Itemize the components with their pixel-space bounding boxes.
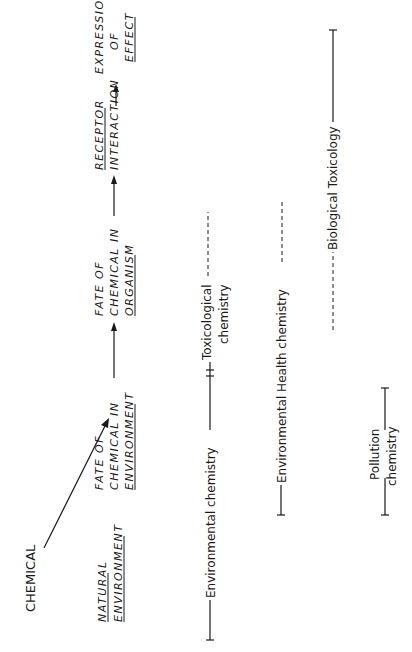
span-pollution-chemistry: Pollution chemistry [368, 388, 399, 515]
svg-text:ENVIRONMENT: ENVIRONMENT [112, 524, 125, 622]
svg-text:Biological Toxicology: Biological Toxicology [326, 126, 340, 250]
arrowhead-icon [111, 322, 117, 331]
chemical-label: CHEMICAL [23, 544, 38, 612]
svg-text:NATURAL: NATURAL [96, 560, 109, 622]
svg-text:CHEMICAL IN: CHEMICAL IN [108, 402, 121, 490]
span-toxicological-chemistry: Toxicological chemistry [200, 212, 231, 361]
svg-text:Toxicological: Toxicological [200, 284, 214, 361]
stage-fate-in-organism: FATE OF CHEMICAL IN ORGANISM [93, 228, 136, 316]
span-environmental-chemistry: Environmental chemistry [204, 362, 218, 640]
svg-text:Environmental Health chemistr: Environmental Health chemistry [275, 289, 289, 483]
svg-text:chemistry: chemistry [217, 284, 231, 344]
chemical-fate-diagram: CHEMICAL NATURAL ENVIRONMENT FATE OF CHE… [0, 0, 412, 652]
span-biological-toxicology: Biological Toxicology [326, 30, 340, 330]
svg-text:FATE OF: FATE OF [93, 261, 106, 316]
arrowhead-icon [111, 175, 117, 184]
svg-text:OF: OF [108, 32, 121, 50]
svg-text:CHEMICAL IN: CHEMICAL IN [108, 228, 121, 316]
stage-expression-of-effect: EXPRESSION OF EFFECT [93, 0, 136, 74]
svg-text:RECEPTOR: RECEPTOR [93, 99, 106, 170]
svg-text:FATE OF: FATE OF [93, 435, 106, 490]
stage-fate-in-environment: FATE OF CHEMICAL IN ENVIRONMENT [93, 392, 136, 490]
span-environmental-health-chemistry: Environmental Health chemistry [275, 200, 289, 515]
svg-text:EFFECT: EFFECT [123, 12, 136, 62]
svg-text:chemistry: chemistry [385, 426, 399, 486]
svg-text:EXPRESSION: EXPRESSION [93, 0, 106, 74]
svg-text:INTERACTION: INTERACTION [108, 79, 121, 170]
svg-text:Environmental chemistry: Environmental chemistry [204, 447, 218, 598]
stage-natural-environment: NATURAL ENVIRONMENT [96, 524, 125, 622]
svg-text:Pollution: Pollution [368, 429, 382, 480]
svg-text:ENVIRONMENT: ENVIRONMENT [123, 392, 136, 490]
svg-text:ORGANISM: ORGANISM [123, 244, 136, 316]
stage-receptor-interaction: RECEPTOR INTERACTION [93, 79, 121, 170]
